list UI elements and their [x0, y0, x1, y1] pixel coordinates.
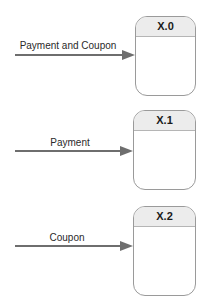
arrowhead-icon [120, 241, 133, 251]
flow-label-payment: Payment [50, 137, 89, 148]
process-x2-header: X.2 [134, 207, 195, 227]
flow-label-coupon: Coupon [49, 232, 84, 243]
process-x2[interactable]: X.2 [133, 206, 196, 296]
process-x1[interactable]: X.1 [133, 110, 196, 190]
flow-label-payment-and-coupon: Payment and Coupon [20, 40, 117, 51]
arrowhead-icon [120, 146, 133, 156]
process-x0-header: X.0 [136, 17, 195, 37]
process-x0[interactable]: X.0 [135, 16, 196, 96]
arrowhead-icon [122, 50, 135, 60]
process-x1-header: X.1 [134, 111, 195, 131]
